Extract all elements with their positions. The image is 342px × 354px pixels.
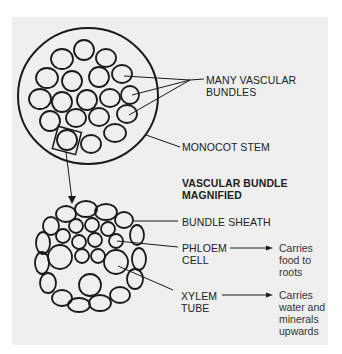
stem-vascular-bundles <box>29 40 139 153</box>
desc-line: food to <box>279 254 313 266</box>
label-line: PHLOEM <box>182 242 227 254</box>
label-line: MANY VASCULAR <box>206 74 296 86</box>
label-line: XYLEM <box>181 290 217 302</box>
label-bundle-sheath: BUNDLE SHEATH <box>182 216 271 228</box>
description-xylem: Carries water and minerals upwards <box>279 289 325 337</box>
monocot-stem-outline <box>18 28 158 164</box>
desc-line: upwards <box>279 325 325 337</box>
label-line: CELL <box>182 254 227 266</box>
label-line: TUBE <box>181 302 217 314</box>
label-many-vascular-bundles: MANY VASCULAR BUNDLES <box>206 74 296 98</box>
desc-line: Carries <box>279 289 325 301</box>
label-phloem-cell: PHLOEM CELL <box>182 242 227 266</box>
title-vascular-bundle-magnified: VASCULAR BUNDLE MAGNIFIED <box>182 177 288 201</box>
desc-line: roots <box>279 266 313 278</box>
desc-line: water and <box>279 301 325 313</box>
title-line: MAGNIFIED <box>182 189 288 201</box>
desc-line: Carries <box>279 242 313 254</box>
label-monocot-stem: MONOCOT STEM <box>182 141 270 153</box>
label-xylem-tube: XYLEM TUBE <box>181 290 217 314</box>
label-line: BUNDLES <box>206 86 296 98</box>
description-phloem: Carries food to roots <box>279 242 313 278</box>
title-line: VASCULAR BUNDLE <box>182 177 288 189</box>
desc-line: minerals <box>279 313 325 325</box>
magnified-bundle <box>35 201 146 312</box>
